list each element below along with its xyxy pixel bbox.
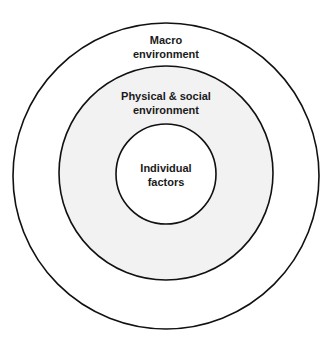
label-physical-social-line2: environment (106, 103, 226, 117)
label-macro: Macro environment (116, 33, 216, 61)
label-individual-line1: Individual (126, 161, 206, 175)
label-individual: Individual factors (126, 161, 206, 189)
label-macro-line2: environment (116, 47, 216, 61)
label-physical-social: Physical & social environment (106, 89, 226, 117)
label-macro-line1: Macro (116, 33, 216, 47)
label-individual-line2: factors (126, 175, 206, 189)
label-physical-social-line1: Physical & social (106, 89, 226, 103)
